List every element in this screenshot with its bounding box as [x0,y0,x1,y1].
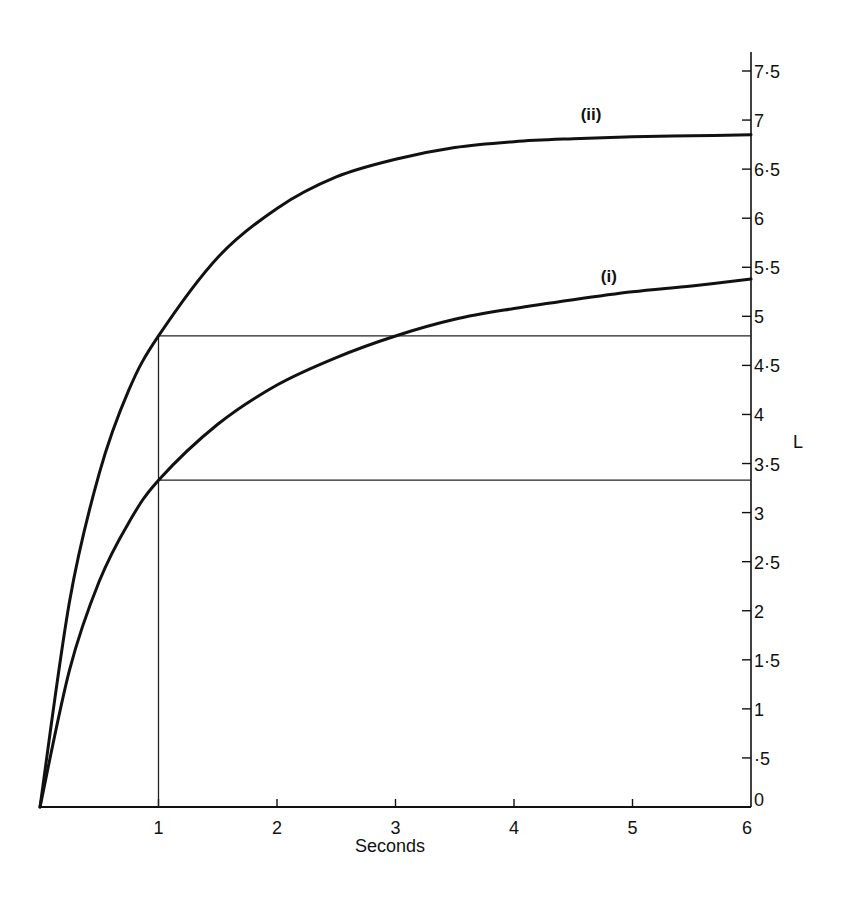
y-tick-label: 7·5 [754,62,780,82]
y-tick-label: 4·5 [754,356,780,376]
y-tick-label: 3·5 [754,455,780,475]
x-tick-label: 3 [390,818,400,838]
y-tick-label: 4 [754,405,764,425]
y-tick-label: 2·5 [754,553,780,573]
y-tick-label: 3 [754,504,764,524]
curve-i-label: (i) [601,267,617,286]
x-tick-label: 6 [742,818,752,838]
chart: 1234560·511·522·533·544·555·566·577·5 Se… [0,0,844,899]
curve-ii [40,135,751,807]
y-axis-title: L [793,432,803,452]
y-tick-label: ·5 [754,749,770,769]
curve-i [40,279,751,807]
y-tick-label: 1 [754,700,764,720]
x-axis-title: Seconds [355,836,425,856]
curves [40,135,751,807]
y-tick-label: 1·5 [754,651,780,671]
curve-ii-label: (ii) [581,105,602,124]
axes: 1234560·511·522·533·544·555·566·577·5 [40,52,780,838]
y-tick-label: 7 [754,111,764,131]
y-tick-label: 5·5 [754,258,780,278]
x-tick-label: 2 [272,818,282,838]
reference-lines [159,336,752,807]
x-tick-label: 1 [153,818,163,838]
x-tick-label: 5 [627,818,637,838]
y-tick-label: 6·5 [754,160,780,180]
y-tick-label: 2 [754,602,764,622]
y-tick-label: 6 [754,209,764,229]
y-tick-label: 5 [754,307,764,327]
x-tick-label: 4 [509,818,519,838]
y-tick-label: 0 [754,790,764,810]
